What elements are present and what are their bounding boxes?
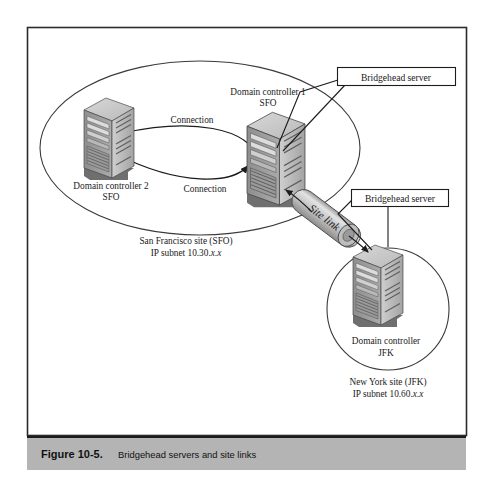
label-domain-controller-jfk-line2: JFK — [378, 348, 394, 358]
label-san-francisco-subnet: IP subnet 10.30.x.x — [151, 248, 223, 258]
label-connection-bottom: Connection — [184, 184, 227, 194]
label-domain-controller-1-line2: SFO — [259, 98, 276, 108]
label-domain-controller-2-line1: Domain controller 2 — [73, 181, 149, 191]
server-domain-controller-2 — [84, 98, 134, 180]
label-san-francisco-site: San Francisco site (SFO) — [139, 236, 232, 247]
caption-number: Figure 10-5. — [41, 448, 103, 460]
label-domain-controller-2-line2: SFO — [102, 192, 119, 202]
figure-container: Site link Bridgehead server Bridgehead s… — [0, 0, 484, 483]
label-connection-top: Connection — [171, 115, 214, 125]
callout-bottom-label: Bridgehead server — [365, 193, 436, 204]
label-sf-subnet-prefix: IP subnet 10.30. — [151, 248, 211, 258]
label-ny-subnet-italic: x.x — [412, 389, 424, 399]
label-domain-controller-1-line1: Domain controller 1 — [230, 87, 306, 97]
server-domain-controller-jfk — [353, 245, 403, 327]
label-ny-subnet-prefix: IP subnet 10.60. — [353, 389, 413, 399]
caption-text: Bridgehead servers and site links — [118, 449, 256, 460]
label-sf-subnet-italic: x.x — [210, 248, 222, 258]
label-new-york-subnet: IP subnet 10.60.x.x — [353, 389, 425, 399]
callout-top-label: Bridgehead server — [361, 72, 432, 83]
label-new-york-site: New York site (JFK) — [350, 377, 427, 388]
label-domain-controller-jfk-line1: Domain controller — [352, 336, 421, 346]
